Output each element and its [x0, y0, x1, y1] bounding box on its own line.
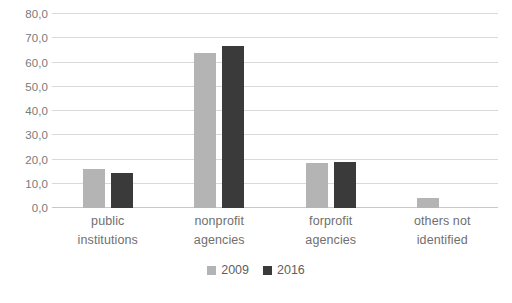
- legend-swatch-icon: [207, 266, 216, 275]
- bar-group: [412, 14, 472, 208]
- y-axis-tick-label: 0,0: [4, 203, 48, 214]
- legend-swatch-icon: [263, 266, 272, 275]
- x-axis-labels: publicinstitutionsnonprofitagenciesforpr…: [52, 212, 498, 258]
- x-axis-category-label: publicinstitutions: [52, 212, 164, 250]
- legend-item-2016[interactable]: 2016: [263, 264, 305, 277]
- y-axis-tick-label: 30,0: [4, 130, 48, 141]
- bar-2016-2: [334, 162, 356, 208]
- bar-2009-2: [306, 163, 328, 208]
- y-axis-tick-label: 70,0: [4, 33, 48, 44]
- y-axis: 80,070,060,050,040,030,020,010,00,0: [0, 14, 48, 208]
- y-axis-tick-label: 40,0: [4, 106, 48, 117]
- bar-chart: 80,070,060,050,040,030,020,010,00,0 publ…: [0, 0, 512, 303]
- bar-2009-3: [417, 198, 439, 208]
- legend-item-2009[interactable]: 2009: [207, 264, 249, 277]
- bar-2009-1: [194, 53, 216, 208]
- chart-legend: 20092016: [0, 264, 512, 277]
- category-label-line: identified: [387, 231, 499, 250]
- category-label-line: public: [52, 212, 164, 231]
- x-axis-category-label: others notidentified: [387, 212, 499, 250]
- y-axis-tick-label: 80,0: [4, 9, 48, 20]
- category-label-line: institutions: [52, 231, 164, 250]
- bar-group: [78, 14, 138, 208]
- category-label-line: forprofit: [275, 212, 387, 231]
- plot-area: [52, 14, 498, 208]
- y-axis-tick-label: 60,0: [4, 58, 48, 69]
- bar-2016-1: [222, 46, 244, 208]
- category-label-line: agencies: [164, 231, 276, 250]
- category-label-line: nonprofit: [164, 212, 276, 231]
- bar-group: [189, 14, 249, 208]
- y-axis-tick-label: 10,0: [4, 179, 48, 190]
- bar-2009-0: [83, 169, 105, 208]
- legend-label: 2016: [277, 264, 305, 277]
- y-axis-tick-label: 20,0: [4, 155, 48, 166]
- x-axis-category-label: forprofitagencies: [275, 212, 387, 250]
- x-axis-category-label: nonprofitagencies: [164, 212, 276, 250]
- y-axis-tick-label: 50,0: [4, 82, 48, 93]
- bar-2016-0: [111, 173, 133, 208]
- legend-label: 2009: [221, 264, 249, 277]
- category-label-line: agencies: [275, 231, 387, 250]
- bar-group: [301, 14, 361, 208]
- category-label-line: others not: [387, 212, 499, 231]
